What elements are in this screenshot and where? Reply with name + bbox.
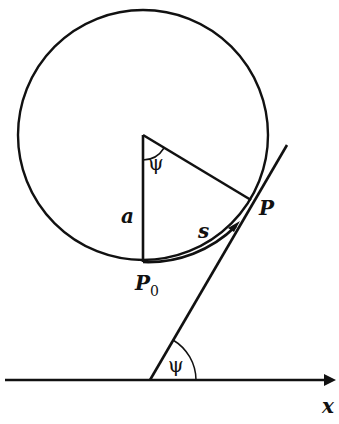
- point-p0-label: P 0: [134, 271, 159, 299]
- arc-length-label: s: [197, 219, 209, 243]
- radius-label: a: [121, 204, 134, 228]
- point-p0-main: P: [134, 271, 151, 295]
- point-p-label: P: [258, 196, 275, 220]
- psi-center-label: ψ: [148, 151, 164, 175]
- diagram-canvas: ψ ψ a P s P 0 x: [0, 0, 339, 424]
- x-axis-arrowhead-icon: [324, 374, 336, 386]
- x-axis-label: x: [321, 394, 335, 418]
- psi-axis-label: ψ: [168, 353, 184, 377]
- point-p0-subscript: 0: [150, 283, 159, 299]
